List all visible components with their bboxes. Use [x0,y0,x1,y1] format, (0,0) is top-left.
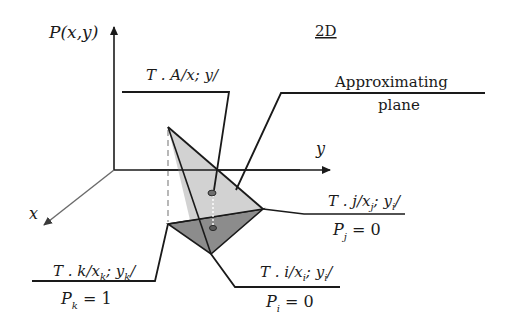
label-point-k: T . k/xk; yk/ [53,262,137,282]
value-point-i: Pi = 0 [265,292,314,314]
approximating-plane-triangle [168,127,263,220]
y-axis-label: y [315,139,326,158]
label-point-j: T . j/xj; yi/ [328,192,402,212]
label-plane: plane [378,96,420,114]
point-on-base [210,225,217,230]
leader-approximating-plane [236,93,485,190]
label-approximating: Approximating [334,73,448,91]
x-axis [44,170,114,225]
vertical-axis-label: P(x,y) [48,22,98,42]
point-on-plane [208,190,216,196]
label-point-i: T . i/xi; yi/ [260,263,334,283]
value-point-k: Pk = 1 [60,289,112,311]
value-point-j: Pj = 0 [332,220,381,242]
diagram-canvas: P(x,y) y x 2D T . A/x; y/ Approximating … [0,0,511,328]
x-axis-label: x [29,204,38,223]
title-2d: 2D [315,22,337,40]
label-point-A: T . A/x; y/ [146,66,220,84]
